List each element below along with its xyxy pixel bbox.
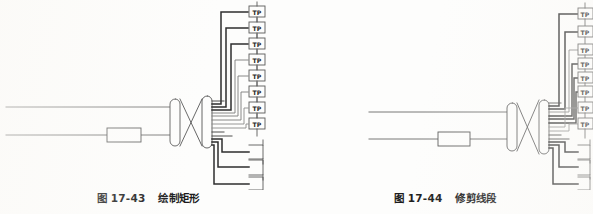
terminal-label: TP	[253, 57, 262, 64]
bracket-stack	[578, 140, 590, 190]
inline-rectangle-component	[438, 132, 470, 146]
terminal-label: TP	[253, 121, 262, 128]
connector-cross-b	[517, 100, 539, 151]
connector-plate-right	[202, 96, 212, 148]
wire-to-terminal-5	[549, 78, 578, 119]
terminal-label: TP	[581, 121, 590, 128]
terminal-label: TP	[253, 105, 262, 112]
figure-caption-17-43: 图 17-43绘制矩形	[0, 190, 296, 205]
terminal-stack	[578, 3, 593, 138]
terminal-label: TP	[581, 11, 590, 18]
figure-page: TP TP TP TP TP TP TP TP 图 17-43绘制矩形	[0, 0, 593, 214]
terminal-stack	[249, 2, 265, 136]
figure-number: 图 17-43	[97, 192, 146, 204]
bracket-terminal	[249, 177, 263, 190]
terminal-label: TP	[581, 75, 590, 82]
wire-to-terminal-8	[549, 124, 578, 131]
bracket-stack	[249, 140, 263, 190]
bracket-terminal	[578, 177, 590, 190]
figure-panel-17-43: TP TP TP TP TP TP TP TP 图 17-43绘制矩形	[0, 0, 296, 214]
figure-panel-17-44: TP TP TP TP TP TP TP TP 图 17-44修剪线段	[297, 0, 593, 214]
wiring-diagram-17-43: TP TP TP TP TP TP TP TP	[0, 0, 296, 190]
wire-to-terminal-4	[212, 60, 248, 113]
terminal-label: TP	[253, 9, 262, 16]
wire-to-bracket-3	[549, 148, 578, 184]
figure-number: 图 17-44	[394, 192, 443, 204]
bracket-terminal	[578, 160, 590, 175]
inline-rectangle-component	[107, 128, 141, 142]
connector-plate-left	[170, 99, 180, 146]
figure-title: 绘制矩形	[158, 192, 199, 204]
terminal-label: TP	[581, 29, 590, 36]
terminal-label: TP	[253, 89, 262, 96]
figure-title: 修剪线段	[455, 192, 496, 204]
terminal-label: TP	[581, 105, 590, 112]
wiring-diagram-17-44: TP TP TP TP TP TP TP TP	[297, 0, 593, 190]
terminal-label: TP	[581, 89, 590, 96]
terminal-label: TP	[581, 47, 590, 54]
wire-to-bracket-2	[212, 142, 249, 167]
wire-to-terminal-2	[212, 28, 248, 107]
wire-to-terminal-8	[212, 124, 248, 128]
bracket-terminal	[249, 160, 263, 175]
bracket-terminal	[578, 145, 590, 159]
terminal-label: TP	[581, 61, 590, 68]
terminal-label: TP	[253, 73, 262, 80]
connector-plate-right	[539, 100, 549, 154]
connector-cross-a	[517, 103, 539, 154]
wire-to-terminal-3	[212, 44, 248, 110]
bracket-terminal	[249, 145, 263, 159]
terminal-label: TP	[253, 25, 262, 32]
figure-caption-17-44: 图 17-44修剪线段	[297, 190, 593, 205]
wire-to-terminal-1	[212, 12, 248, 104]
connector-plate-left	[507, 103, 517, 151]
terminal-label: TP	[253, 41, 262, 48]
